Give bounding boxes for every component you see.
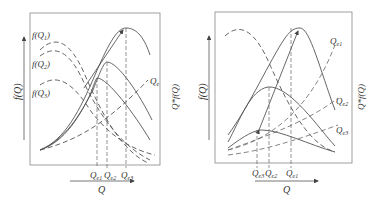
left-x-label: Q — [98, 184, 106, 195]
marker-qe2: Qe2 — [104, 170, 116, 181]
curve-label-2: f(Q2) — [32, 59, 50, 70]
right-qe-lines — [228, 45, 338, 155]
right-demand-curve — [225, 29, 335, 152]
line-label-qe3: Qe3 — [336, 125, 348, 136]
right-y-right-label: Q*f(Q) — [356, 84, 366, 110]
left-y-label: f(Q) — [12, 83, 24, 100]
marker-right-qe1: Qe1 — [286, 168, 298, 179]
right-arrow — [259, 31, 298, 130]
left-demand-curves — [40, 42, 155, 163]
curve-label-1: f(Q1) — [32, 30, 50, 41]
right-markers — [257, 28, 291, 168]
right-panel: f(Q) Q*f(Q) Qe1 Qe2 Qe3 Qe3 Qe2 Qe1 — [197, 12, 366, 195]
right-y-label: f(Q) — [197, 83, 209, 100]
left-y-right-label: Q*f(Q) — [170, 84, 180, 110]
line-label-qe1: Qe1 — [330, 36, 342, 47]
marker-qe3: Qe3 — [121, 170, 133, 181]
line-label-qe2: Qe2 — [336, 96, 348, 107]
qe-line-label: Qe — [150, 76, 160, 87]
marker-qe1: Qe1 — [90, 170, 102, 181]
left-markers — [97, 28, 126, 168]
diagram-canvas: f(Q) Q*f(Q) f(Q1) f(Q2) f(Q3) Qe Qe1 Qe2 — [0, 0, 376, 198]
left-panel: f(Q) Q*f(Q) f(Q1) f(Q2) f(Q3) Qe Qe1 Qe2 — [12, 13, 180, 195]
marker-right-qe2: Qe2 — [265, 168, 277, 179]
right-frame — [215, 12, 352, 163]
curve-label-3: f(Q3) — [32, 88, 50, 99]
left-arrow — [84, 30, 123, 88]
marker-right-qe3: Qe3 — [252, 168, 264, 179]
left-solid-curves — [40, 28, 152, 150]
right-x-label: Q — [283, 184, 291, 195]
